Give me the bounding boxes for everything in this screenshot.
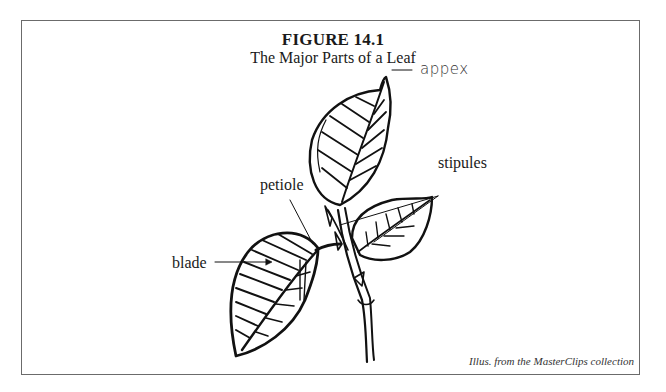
leaf-illustration: [0, 0, 666, 392]
blade-leaf: [231, 233, 318, 356]
top-leaf: [310, 77, 391, 205]
illustration-credit: Illus. from the MasterClips collection: [469, 355, 634, 367]
label-blade: blade: [172, 254, 207, 272]
label-stipules: stipules: [438, 154, 487, 172]
label-petiole: petiole: [260, 176, 304, 194]
label-apex: appex: [420, 60, 469, 78]
